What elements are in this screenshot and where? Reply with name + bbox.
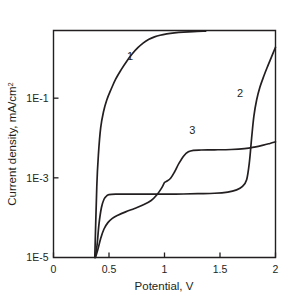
y-axis-title: Current density, mA/cm2 (6, 82, 18, 206)
curve-1 (95, 31, 206, 257)
x-tick-label-1: 0.5 (102, 263, 117, 275)
y-axis-title-base: Current density, mA/cm (6, 86, 18, 205)
y-tick-label-2: 1E-1 (26, 92, 48, 104)
x-tick-label-2: 1 (162, 263, 168, 275)
x-axis-tick-labels: 00.511.52 (51, 263, 279, 275)
axis-frame (54, 31, 276, 258)
curve-3 (95, 142, 275, 258)
x-axis-ticks (54, 253, 276, 258)
curve-label-2: 2 (237, 87, 243, 99)
curve-label-3: 3 (189, 124, 195, 136)
y-axis-tick-labels: 1E-51E-31E-1 (26, 92, 48, 263)
curve-2 (95, 47, 275, 257)
data-curves (95, 31, 276, 257)
y-tick-label-1: 1E-3 (26, 172, 48, 184)
polarization-chart: 00.511.52 1E-51E-31E-1 123 Potential, V … (0, 0, 288, 301)
x-axis-title: Potential, V (135, 280, 194, 292)
curve-annotations: 123 (127, 50, 243, 136)
plot-frame (54, 31, 276, 258)
x-tick-label-4: 2 (273, 263, 279, 275)
x-tick-label-3: 1.5 (213, 263, 228, 275)
curve-label-1: 1 (127, 50, 133, 62)
y-tick-label-0: 1E-5 (26, 251, 48, 263)
y-axis-title-group: Current density, mA/cm2 (6, 82, 18, 206)
y-axis-title-exponent: 2 (6, 82, 15, 86)
figure-container: 00.511.52 1E-51E-31E-1 123 Potential, V … (0, 0, 288, 301)
x-tick-label-0: 0 (51, 263, 57, 275)
y-axis-ticks (54, 98, 59, 178)
